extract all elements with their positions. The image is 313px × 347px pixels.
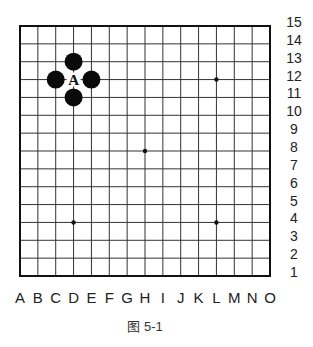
- black-stone: [47, 71, 65, 89]
- row-label: 15: [281, 15, 307, 29]
- column-label: J: [172, 290, 190, 306]
- column-label: B: [29, 290, 47, 306]
- row-label: 7: [281, 158, 307, 172]
- row-label: 10: [281, 104, 307, 118]
- row-label: 6: [281, 176, 307, 190]
- column-label: L: [207, 290, 225, 306]
- black-stone: [65, 88, 83, 106]
- column-label: G: [118, 290, 136, 306]
- column-label: C: [47, 290, 65, 306]
- row-label: 1: [281, 265, 307, 279]
- column-label: H: [136, 290, 154, 306]
- black-stone: [82, 71, 100, 89]
- row-label: 13: [281, 51, 307, 65]
- figure-caption: 图 5-1: [0, 316, 290, 335]
- column-label: E: [82, 290, 100, 306]
- go-board: A: [0, 0, 313, 290]
- column-label: O: [261, 290, 279, 306]
- star-point: [214, 220, 218, 224]
- row-label: 12: [281, 69, 307, 83]
- black-stone: [65, 53, 83, 71]
- star-point: [214, 77, 218, 81]
- row-label: 4: [281, 211, 307, 225]
- row-label: 3: [281, 229, 307, 243]
- column-label: F: [100, 290, 118, 306]
- row-label: 11: [281, 86, 307, 100]
- column-label: N: [243, 290, 261, 306]
- column-label: M: [225, 290, 243, 306]
- row-label: 9: [281, 122, 307, 136]
- row-label: 14: [281, 33, 307, 47]
- column-label: D: [65, 290, 83, 306]
- column-label: A: [11, 290, 29, 306]
- point-marker-label: A: [68, 72, 79, 88]
- column-label: I: [154, 290, 172, 306]
- row-label: 8: [281, 140, 307, 154]
- row-label: 5: [281, 194, 307, 208]
- star-point: [143, 149, 147, 153]
- star-point: [71, 220, 75, 224]
- row-label: 2: [281, 247, 307, 261]
- column-label: K: [190, 290, 208, 306]
